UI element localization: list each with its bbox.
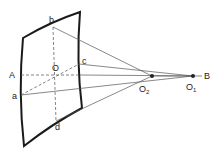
optics-diagram: b c A O a d O2 O1 B: [0, 0, 223, 158]
ray-d: [56, 76, 152, 121]
point-O1: [191, 74, 195, 78]
label-a: a: [12, 91, 17, 101]
point-O2: [150, 74, 154, 78]
label-b: b: [49, 15, 54, 25]
label-d: d: [55, 122, 60, 132]
ray-a: [21, 76, 193, 95]
dashed-line-a-c: [21, 64, 79, 95]
label-A: A: [9, 70, 15, 80]
label-B: B: [204, 71, 210, 81]
label-O: O: [52, 63, 59, 73]
label-c: c: [82, 56, 87, 66]
ray-c: [79, 64, 193, 76]
curved-surface-frame: [21, 12, 82, 146]
label-O2: O2: [139, 84, 150, 95]
label-O1: O1: [186, 82, 197, 93]
dashed-axis-b-d: [53, 27, 56, 121]
ray-b: [53, 27, 152, 76]
